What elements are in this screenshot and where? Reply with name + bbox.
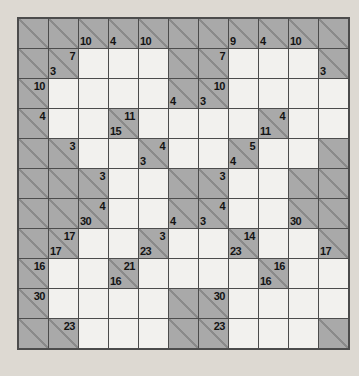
blocked-cell (319, 139, 348, 168)
entry-cell[interactable] (109, 229, 138, 258)
entry-cell[interactable] (289, 319, 318, 348)
entry-cell[interactable] (49, 109, 78, 138)
down-clue: 3 (320, 65, 326, 77)
entry-cell[interactable] (289, 139, 318, 168)
down-clue: 4 (170, 95, 176, 107)
across-clue: 16 (34, 260, 45, 272)
entry-cell[interactable] (199, 109, 228, 138)
entry-cell[interactable] (109, 199, 138, 228)
entry-cell[interactable] (229, 79, 258, 108)
entry-cell[interactable] (109, 169, 138, 198)
clue-cell: 43 (139, 139, 168, 168)
clue-cell: 430 (79, 199, 108, 228)
down-clue: 30 (290, 215, 301, 227)
entry-cell[interactable] (199, 259, 228, 288)
entry-cell[interactable] (139, 319, 168, 348)
entry-cell[interactable] (289, 49, 318, 78)
entry-cell[interactable] (139, 79, 168, 108)
entry-cell[interactable] (229, 259, 258, 288)
clue-cell: 30 (289, 199, 318, 228)
entry-cell[interactable] (259, 169, 288, 198)
entry-cell[interactable] (79, 139, 108, 168)
clue-cell: 3 (319, 49, 348, 78)
entry-cell[interactable] (79, 259, 108, 288)
entry-cell[interactable] (139, 259, 168, 288)
clue-cell: 4 (169, 79, 198, 108)
down-clue: 3 (140, 155, 146, 167)
entry-cell[interactable] (109, 319, 138, 348)
entry-cell[interactable] (229, 319, 258, 348)
entry-cell[interactable] (169, 259, 198, 288)
entry-cell[interactable] (259, 229, 288, 258)
down-clue: 23 (140, 245, 151, 257)
entry-cell[interactable] (289, 259, 318, 288)
blocked-cell (319, 319, 348, 348)
clue-cell: 10 (19, 79, 48, 108)
entry-cell[interactable] (49, 289, 78, 318)
entry-cell[interactable] (289, 289, 318, 318)
entry-cell[interactable] (109, 49, 138, 78)
entry-cell[interactable] (289, 229, 318, 258)
blocked-cell (49, 199, 78, 228)
entry-cell[interactable] (109, 79, 138, 108)
blocked-cell (19, 199, 48, 228)
entry-cell[interactable] (229, 289, 258, 318)
across-clue: 4 (159, 140, 165, 152)
blocked-cell (169, 19, 198, 48)
entry-cell[interactable] (199, 139, 228, 168)
entry-cell[interactable] (139, 289, 168, 318)
entry-cell[interactable] (169, 109, 198, 138)
clue-cell: 4 (19, 109, 48, 138)
entry-cell[interactable] (259, 79, 288, 108)
entry-cell[interactable] (49, 79, 78, 108)
down-clue: 30 (80, 215, 91, 227)
clue-cell: 73 (49, 49, 78, 78)
entry-cell[interactable] (259, 139, 288, 168)
clue-cell: 1115 (109, 109, 138, 138)
entry-cell[interactable] (289, 79, 318, 108)
entry-cell[interactable] (79, 79, 108, 108)
entry-cell[interactable] (139, 199, 168, 228)
blocked-cell (169, 289, 198, 318)
clue-cell: 10 (139, 19, 168, 48)
entry-cell[interactable] (49, 259, 78, 288)
entry-cell[interactable] (79, 49, 108, 78)
blocked-cell (19, 319, 48, 348)
entry-cell[interactable] (319, 79, 348, 108)
entry-cell[interactable] (109, 289, 138, 318)
entry-cell[interactable] (169, 139, 198, 168)
blocked-cell (169, 319, 198, 348)
clue-cell: 1717 (49, 229, 78, 258)
entry-cell[interactable] (289, 109, 318, 138)
entry-cell[interactable] (109, 139, 138, 168)
entry-cell[interactable] (199, 229, 228, 258)
entry-cell[interactable] (229, 199, 258, 228)
entry-cell[interactable] (139, 169, 168, 198)
entry-cell[interactable] (229, 49, 258, 78)
entry-cell[interactable] (229, 109, 258, 138)
entry-cell[interactable] (169, 229, 198, 258)
entry-cell[interactable] (79, 319, 108, 348)
clue-cell: 2116 (109, 259, 138, 288)
blocked-cell (19, 49, 48, 78)
across-clue: 3 (219, 170, 225, 182)
entry-cell[interactable] (259, 49, 288, 78)
entry-cell[interactable] (229, 169, 258, 198)
entry-cell[interactable] (79, 109, 108, 138)
clue-cell: 54 (229, 139, 258, 168)
entry-cell[interactable] (259, 289, 288, 318)
across-clue: 30 (214, 290, 225, 302)
clue-cell: 323 (139, 229, 168, 258)
entry-cell[interactable] (79, 229, 108, 258)
entry-cell[interactable] (319, 289, 348, 318)
blocked-cell (169, 49, 198, 78)
clue-cell: 17 (319, 229, 348, 258)
entry-cell[interactable] (259, 319, 288, 348)
entry-cell[interactable] (139, 109, 168, 138)
entry-cell[interactable] (259, 199, 288, 228)
entry-cell[interactable] (79, 289, 108, 318)
clue-cell: 411 (259, 109, 288, 138)
entry-cell[interactable] (319, 109, 348, 138)
entry-cell[interactable] (139, 49, 168, 78)
entry-cell[interactable] (319, 259, 348, 288)
